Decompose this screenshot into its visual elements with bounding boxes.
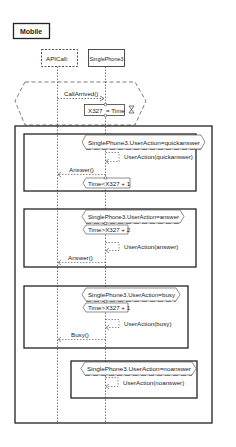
timer-icon <box>104 222 107 225</box>
reply-label: Answer() <box>69 166 94 173</box>
timer-icon <box>104 177 107 180</box>
hourglass-icon <box>129 106 134 113</box>
condition-label: SinglePhone3.UserAction=noanswer <box>87 365 191 372</box>
condition-label: SinglePhone3.UserAction=busy <box>88 291 176 298</box>
time-condition-label: Time>X327 + 2 <box>88 226 131 233</box>
reply-label: Busy() <box>71 331 89 338</box>
message-callarrived-label: CallArrived() <box>64 90 98 97</box>
assignment-var: X327 <box>88 107 103 114</box>
timer-end-icon <box>104 114 107 117</box>
alternative-busy: SinglePhone3.UserAction=busy Time>X327 +… <box>24 286 188 348</box>
alternative-answer: SinglePhone3.UserAction=answer Time>X327… <box>24 209 196 267</box>
lifeline-singlephone3[interactable]: SinglePhone3 <box>89 50 125 67</box>
time-condition-label: Time>X327 + 1 <box>88 304 131 311</box>
lifeline-label: APICall: <box>46 55 69 62</box>
trigger-region: CallArrived() X327 = Time <box>15 82 146 125</box>
timer-icon <box>104 300 107 303</box>
time-condition-label: Time<X327 + 1 <box>88 180 131 187</box>
condition-label: SinglePhone3.UserAction=answer <box>88 213 179 220</box>
self-message-label: UserAction(answer) <box>124 243 178 250</box>
self-message-label: UserAction(quickanswer) <box>124 153 193 160</box>
timer-start-icon <box>104 103 107 106</box>
title-text: Mobile <box>20 28 42 35</box>
diagram-title: Mobile <box>14 24 50 39</box>
self-message-label: UserAction(noanswer) <box>123 379 184 386</box>
lifeline-apicall[interactable]: APICall: <box>42 50 78 67</box>
lifeline-label: SinglePhone3 <box>90 55 124 62</box>
reply-label: Answer() <box>68 254 93 261</box>
alternative-quickanswer: SinglePhone3.UserAction=quickanswer User… <box>24 134 205 191</box>
condition-label: SinglePhone3.UserAction=quickanswer <box>88 139 200 146</box>
sequence-diagram: Mobile APICall: SinglePhone3 CallArrived… <box>0 0 236 447</box>
alternative-noanswer: SinglePhone3.UserAction=noanswer UserAct… <box>71 361 197 398</box>
assignment-expr: = Time <box>106 107 125 114</box>
self-message-label: UserAction(busy) <box>124 320 171 327</box>
